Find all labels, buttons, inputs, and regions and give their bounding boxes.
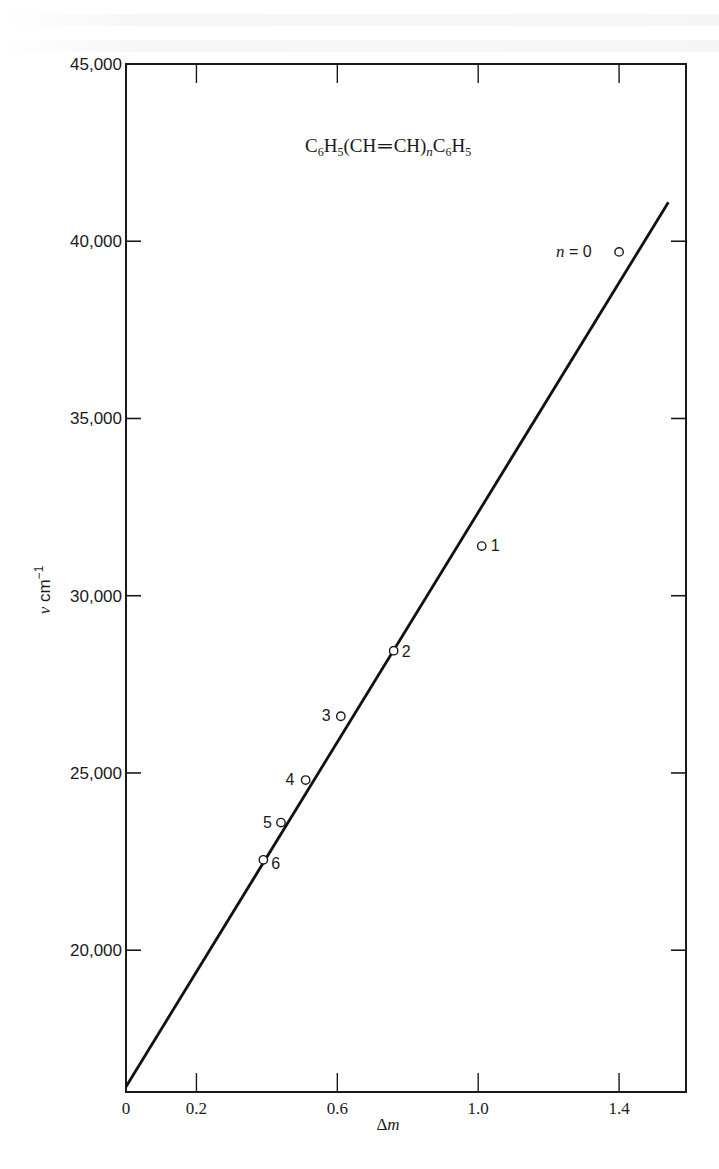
y-axis-ticks: 20,00025,00030,00035,00040,00045,000: [70, 55, 686, 960]
x-tick-label: 1.0: [468, 1099, 489, 1118]
data-point-n4: [301, 776, 309, 784]
y-tick-label: 30,000: [70, 587, 122, 606]
x-axis-ticks: 00.20.61.01.4: [122, 64, 630, 1118]
regression-line: [126, 202, 668, 1086]
point-label: n = 0: [556, 242, 592, 261]
point-label: 6: [271, 855, 280, 872]
data-point-n5: [277, 818, 285, 826]
chart-title-formula: C6H5(CH═CH)nC6H5: [305, 135, 471, 159]
x-tick-label: 0: [122, 1099, 131, 1118]
y-tick-label: 25,000: [70, 764, 122, 783]
x-tick-label: 0.6: [327, 1099, 348, 1118]
point-label: 5: [263, 814, 272, 831]
data-point-n2: [389, 646, 397, 654]
point-label: 1: [491, 537, 500, 554]
y-tick-label: 45,000: [70, 55, 122, 74]
data-point-n0: [615, 248, 623, 256]
point-label: 3: [322, 707, 331, 724]
chart: 20,00025,00030,00035,00040,00045,000 00.…: [0, 0, 719, 1169]
point-label: 2: [402, 643, 411, 660]
x-tick-label: 1.4: [608, 1099, 630, 1118]
data-point-n3: [337, 712, 345, 720]
plot-frame: [126, 64, 686, 1092]
y-axis-title: ν cm−1: [32, 565, 54, 614]
data-point-n1: [478, 542, 486, 550]
data-points: n = 0123456: [259, 242, 623, 872]
x-tick-label: 0.2: [186, 1099, 207, 1118]
point-label: 4: [286, 771, 295, 788]
y-tick-label: 20,000: [70, 941, 122, 960]
y-tick-label: 35,000: [70, 409, 122, 428]
y-tick-label: 40,000: [70, 232, 122, 251]
x-axis-title: Δm: [376, 1115, 399, 1134]
data-point-n6: [259, 856, 267, 864]
fit-line: [126, 202, 668, 1086]
